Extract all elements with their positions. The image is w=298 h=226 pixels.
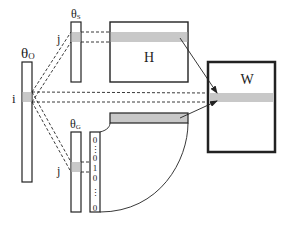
matrix-h-label: H — [144, 50, 154, 65]
matrix-w-label: W — [240, 72, 254, 87]
one-hot-entry: 0 — [93, 153, 98, 163]
row-index-i-label: i — [12, 91, 16, 106]
one-hot-to-bar-curve-arc — [100, 123, 188, 212]
one-hot-entry: ⋮ — [91, 188, 100, 198]
one-hot-entry: 0 — [93, 135, 98, 145]
row-index-j-bottom-label: j — [56, 164, 60, 178]
one-hot-entry: 0 — [93, 173, 98, 183]
factorization-diagram: θO i θS j H W θG j 0 ⋮ 0 1 0 ⋮ 0 — [0, 0, 298, 226]
theta-g-label: θG — [70, 117, 81, 131]
row-index-j-top-label: j — [56, 32, 60, 46]
theta-o-row-i-highlight — [23, 92, 32, 102]
theta-s-row-j-highlight — [72, 32, 81, 42]
theta-g-vector — [71, 132, 81, 212]
theta-g-row-j-highlight — [72, 162, 81, 172]
g-product-row-bar — [110, 113, 188, 123]
theta-o-vector — [22, 62, 32, 182]
matrix-w-row-highlight — [209, 93, 273, 102]
theta-s-label: θS — [71, 7, 81, 21]
theta-o-label: θO — [21, 45, 35, 61]
one-hot-entry: 0 — [93, 203, 98, 213]
matrix-h-row-highlight — [111, 32, 188, 42]
one-hot-to-bar-curve-top — [100, 123, 110, 132]
one-hot-entry: 1 — [93, 163, 98, 173]
theta-s-vector — [71, 22, 81, 82]
